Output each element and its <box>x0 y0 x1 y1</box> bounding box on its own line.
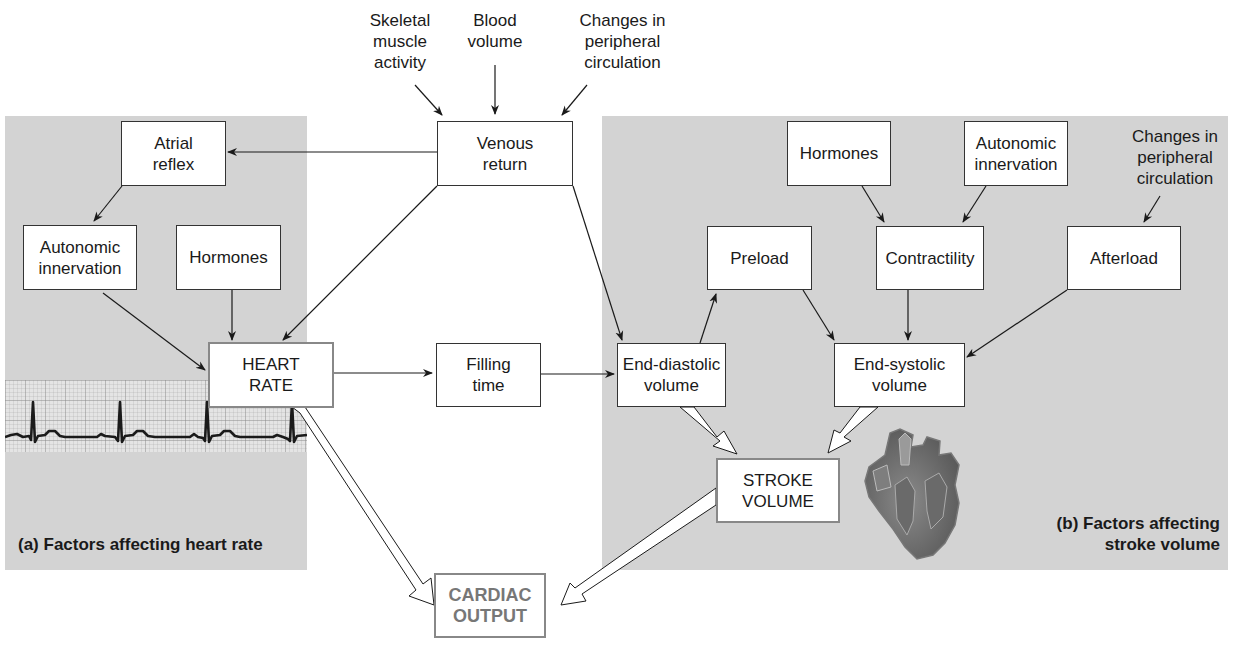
end-diastolic-volume-box: End-diastolic volume <box>617 343 726 407</box>
hormones-right-box: Hormones <box>787 121 891 186</box>
skeletal-muscle-activity-label: Skeletal muscle activity <box>345 10 455 73</box>
preload-box: Preload <box>707 226 812 290</box>
atrial-reflex-box: Atrial reflex <box>121 121 226 186</box>
autonomic-innervation-right-box: Autonomic innervation <box>964 121 1068 186</box>
hormones-left-box: Hormones <box>176 225 281 290</box>
peripheral-circulation-top-label: Changes in peripheral circulation <box>560 10 685 73</box>
afterload-box: Afterload <box>1067 226 1181 290</box>
cardiac-output-box: CARDIAC OUTPUT <box>434 573 546 638</box>
venous-return-box: Venous return <box>437 121 573 186</box>
autonomic-innervation-left-box: Autonomic innervation <box>23 225 137 290</box>
caption-stroke-volume-factors: (b) Factors affecting stroke volume <box>1010 513 1220 555</box>
filling-time-box: Filling time <box>436 343 541 407</box>
stroke-volume-box: STROKE VOLUME <box>716 458 840 523</box>
heart-rate-box: HEART RATE <box>208 342 334 408</box>
end-systolic-volume-box: End-systolic volume <box>834 343 965 407</box>
blood-volume-label: Blood volume <box>450 10 540 52</box>
peripheral-circulation-right-label: Changes in peripheral circulation <box>1120 126 1230 189</box>
contractility-box: Contractility <box>876 226 984 290</box>
caption-heart-rate-factors: (a) Factors affecting heart rate <box>18 534 263 555</box>
